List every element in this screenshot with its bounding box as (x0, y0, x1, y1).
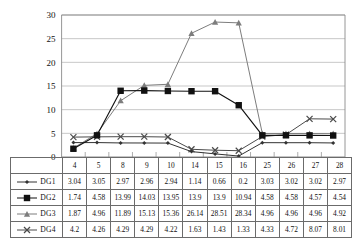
data-point-dg3 (188, 30, 194, 36)
data-point-dg2 (259, 132, 265, 138)
column-header: 27 (303, 158, 327, 174)
legend-label: DG3 (40, 209, 55, 218)
table-cell: 4.54 (328, 190, 352, 206)
table-cell: 1.43 (207, 222, 231, 238)
table-cell: 2.94 (159, 174, 183, 190)
table-row: DG13.043.052.972.962.941.140.660.23.033.… (11, 174, 352, 190)
table-cell: 4.58 (255, 190, 279, 206)
table-cell: 4.96 (303, 206, 327, 222)
data-point-dg2 (188, 88, 194, 94)
legend-item-dg2[interactable]: DG2 (11, 190, 63, 206)
table-cell: 13.99 (111, 190, 135, 206)
table-cell: 4.26 (87, 222, 111, 238)
data-point-dg1 (142, 141, 146, 145)
data-point-dg2 (212, 88, 218, 94)
chart-data-table: 45891014151625262728 DG13.043.052.972.96… (10, 157, 352, 238)
y-axis-tick-label: 30 (47, 10, 57, 20)
table-cell: 4.92 (328, 206, 352, 222)
table-cell: 4.58 (279, 190, 303, 206)
table-cell: 3.02 (279, 174, 303, 190)
table-cell: 28.51 (207, 206, 231, 222)
table-cell: 2.97 (328, 174, 352, 190)
table-cell: 3.02 (303, 174, 327, 190)
series-line-dg2 (73, 91, 333, 149)
table-body: DG13.043.052.972.962.941.140.660.23.033.… (11, 174, 352, 238)
square-icon (17, 193, 37, 203)
data-point-dg1 (119, 141, 123, 145)
data-point-dg2 (236, 102, 242, 108)
table-cell: 4.96 (87, 206, 111, 222)
table-cell: 4.72 (279, 222, 303, 238)
legend-item-dg4[interactable]: DG4 (11, 222, 63, 238)
data-point-dg1 (308, 141, 312, 145)
data-point-dg1 (71, 141, 75, 145)
table-cell: 8.07 (303, 222, 327, 238)
column-header: 5 (87, 158, 111, 174)
legend-item-dg3[interactable]: DG3 (11, 206, 63, 222)
column-header: 14 (183, 158, 207, 174)
column-header: 28 (328, 158, 352, 174)
table-cell: 4.2 (63, 222, 87, 238)
table-row: DG21.744.5813.9914.0313.9513.913.910.944… (11, 190, 352, 206)
column-header: 26 (279, 158, 303, 174)
cross-icon (17, 225, 37, 235)
data-point-dg1 (284, 141, 288, 145)
table-cell: 8.01 (328, 222, 352, 238)
y-axis-tick-label: 20 (47, 58, 57, 68)
table-cell: 3.05 (87, 174, 111, 190)
y-axis-tick-label: 15 (47, 81, 57, 91)
y-axis-tick-label: 10 (47, 105, 57, 115)
data-point-dg1 (166, 141, 170, 145)
data-point-dg2 (70, 146, 76, 152)
column-header: 8 (111, 158, 135, 174)
table-cell: 13.9 (183, 190, 207, 206)
table-cell: 4.96 (279, 206, 303, 222)
table-legend-corner (11, 158, 63, 174)
diamond-icon (17, 177, 37, 187)
legend-item-dg1[interactable]: DG1 (11, 174, 63, 190)
table-cell: 13.95 (159, 190, 183, 206)
column-header: 10 (159, 158, 183, 174)
table-cell: 14.03 (135, 190, 159, 206)
data-point-dg2 (117, 88, 123, 94)
chart-figure: 051015202530 45891014151625262728 DG13.0… (0, 0, 359, 238)
legend-label: DG1 (40, 177, 55, 186)
y-axis-tick-label: 5 (51, 129, 56, 139)
table-cell: 0.66 (207, 174, 231, 190)
table-header-row: 45891014151625262728 (11, 158, 352, 174)
table-cell: 1.74 (63, 190, 87, 206)
table-cell: 1.87 (63, 206, 87, 222)
table-cell: 4.57 (303, 190, 327, 206)
column-header: 16 (231, 158, 255, 174)
data-point-dg2 (94, 132, 100, 138)
table-cell: 15.13 (135, 206, 159, 222)
data-point-dg2 (141, 87, 147, 93)
data-point-dg2 (165, 88, 171, 94)
table-cell: 3.04 (63, 174, 87, 190)
column-header: 15 (207, 158, 231, 174)
data-point-dg2 (306, 132, 312, 138)
data-point-dg1 (331, 141, 335, 145)
table-cell: 13.9 (207, 190, 231, 206)
table-cell: 10.94 (231, 190, 255, 206)
table-cell: 4.29 (111, 222, 135, 238)
series-line-dg4 (73, 119, 333, 151)
legend-label: DG4 (40, 225, 55, 234)
data-point-dg2 (330, 132, 336, 138)
table-cell: 3.03 (255, 174, 279, 190)
table-row: DG44.24.264.294.294.221.631.431.334.334.… (11, 222, 352, 238)
table-row: DG31.874.9611.8915.1315.3626.1428.5128.3… (11, 206, 352, 222)
line-chart-svg: 051015202530 (0, 0, 359, 166)
data-point-dg2 (283, 132, 289, 138)
table-cell: 26.14 (183, 206, 207, 222)
table-cell: 28.34 (231, 206, 255, 222)
data-point-dg3 (118, 98, 124, 104)
table-cell: 0.2 (231, 174, 255, 190)
table-cell: 1.14 (183, 174, 207, 190)
column-header: 25 (255, 158, 279, 174)
table-cell: 4.22 (159, 222, 183, 238)
chart-plot-area: 051015202530 (0, 0, 359, 166)
table-cell: 4.58 (87, 190, 111, 206)
table-cell: 4.29 (135, 222, 159, 238)
table-cell: 1.33 (231, 222, 255, 238)
